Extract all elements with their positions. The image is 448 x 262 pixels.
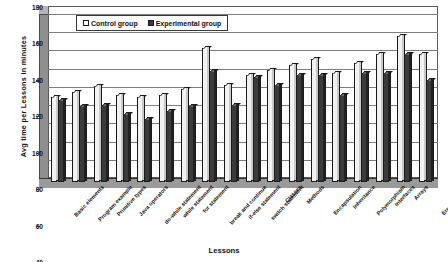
bar-control bbox=[419, 54, 425, 182]
bar-group bbox=[354, 18, 376, 182]
bar-side-face bbox=[149, 117, 152, 181]
bar-side-face bbox=[301, 73, 304, 182]
bar-control bbox=[181, 89, 187, 182]
y-tick-mark bbox=[36, 80, 40, 81]
bar-chart: Avg time per Lessons in minutes 02040608… bbox=[0, 0, 448, 262]
bar-side-face bbox=[323, 73, 326, 182]
bar-control bbox=[376, 54, 382, 182]
bar-control bbox=[94, 86, 100, 182]
bar-control bbox=[311, 59, 317, 182]
y-tick-mark bbox=[36, 153, 40, 154]
bar-group bbox=[419, 18, 441, 182]
y-tick-mark bbox=[36, 226, 40, 227]
bar-control bbox=[332, 73, 338, 182]
legend-swatch-experimental-icon bbox=[148, 20, 154, 26]
bar-group bbox=[289, 18, 311, 182]
bar-control bbox=[72, 92, 78, 182]
bar-group bbox=[202, 18, 224, 182]
bar-side-face bbox=[258, 75, 261, 181]
bar-control bbox=[354, 63, 360, 182]
bar-experimental bbox=[101, 105, 107, 182]
bar-group bbox=[224, 18, 246, 182]
bar-experimental bbox=[79, 106, 85, 182]
bar-side-face bbox=[84, 104, 87, 181]
bar-experimental bbox=[296, 75, 302, 183]
x-tick-label: Error handling bbox=[441, 184, 448, 216]
bar-side-face bbox=[236, 103, 239, 181]
bar-experimental bbox=[231, 105, 237, 182]
bar-experimental bbox=[58, 100, 64, 182]
bar-experimental bbox=[274, 85, 280, 182]
plot-area: 020406080100120140160180 bbox=[48, 14, 438, 182]
bar-control bbox=[116, 95, 122, 182]
bar-group bbox=[94, 18, 116, 182]
x-axis-category-labels: Basic elementsProgram examplePrimitive t… bbox=[48, 182, 448, 252]
bar-group bbox=[181, 18, 203, 182]
bar-side-face bbox=[409, 52, 412, 181]
bar-group bbox=[72, 18, 94, 182]
legend-item-control: Control group bbox=[83, 20, 138, 27]
bar-control bbox=[137, 97, 143, 182]
bar-group bbox=[332, 18, 354, 182]
bar-side-face bbox=[279, 83, 282, 181]
bar-experimental bbox=[209, 71, 215, 182]
chart-legend: Control group Experimental group bbox=[76, 15, 228, 31]
x-axis-title: Lessons bbox=[0, 246, 448, 255]
bar-group bbox=[397, 18, 419, 182]
bar-experimental bbox=[188, 106, 194, 182]
bar-group bbox=[137, 18, 159, 182]
bar-experimental bbox=[253, 77, 259, 182]
bar-control bbox=[202, 48, 208, 182]
bar-experimental bbox=[144, 119, 150, 182]
bar-group bbox=[267, 18, 289, 182]
bar-group bbox=[159, 18, 181, 182]
bar-side-face bbox=[431, 78, 434, 181]
bar-control bbox=[397, 36, 403, 182]
legend-item-experimental: Experimental group bbox=[148, 20, 222, 27]
bar-experimental bbox=[339, 95, 345, 182]
y-tick-mark bbox=[36, 7, 40, 8]
y-tick-mark bbox=[36, 116, 40, 117]
bar-experimental bbox=[318, 75, 324, 183]
bar-experimental bbox=[123, 114, 129, 182]
bar-group bbox=[311, 18, 333, 182]
bar-side-face bbox=[388, 71, 391, 181]
x-tick-label: Methods bbox=[306, 184, 326, 205]
bar-control bbox=[267, 70, 273, 182]
bar-side-face bbox=[128, 112, 131, 181]
bar-control bbox=[224, 85, 230, 182]
bar-group bbox=[116, 18, 138, 182]
bar-experimental bbox=[404, 54, 410, 182]
bar-experimental bbox=[426, 80, 432, 182]
bar-group bbox=[376, 18, 398, 182]
bar-group bbox=[51, 18, 73, 182]
bar-side-face bbox=[214, 69, 217, 181]
bar-side-face bbox=[171, 109, 174, 181]
bar-experimental bbox=[361, 73, 367, 182]
bar-group bbox=[246, 18, 268, 182]
y-tick-mark bbox=[36, 189, 40, 190]
bar-experimental bbox=[383, 73, 389, 182]
bar-control bbox=[159, 95, 165, 182]
y-tick-mark bbox=[36, 43, 40, 44]
bar-side-face bbox=[344, 93, 347, 181]
bar-experimental bbox=[166, 111, 172, 182]
bar-side-face bbox=[366, 71, 369, 181]
bar-side-face bbox=[63, 98, 66, 181]
legend-label-experimental: Experimental group bbox=[156, 20, 222, 27]
y-axis-title: Avg time per Lessons in minutes bbox=[19, 22, 28, 172]
bar-side-face bbox=[106, 103, 109, 181]
bar-control bbox=[289, 65, 295, 182]
legend-label-control: Control group bbox=[91, 20, 138, 27]
bar-side-face bbox=[193, 104, 196, 181]
bar-control bbox=[246, 75, 252, 183]
bar-control bbox=[51, 97, 57, 182]
legend-swatch-control-icon bbox=[83, 20, 89, 26]
